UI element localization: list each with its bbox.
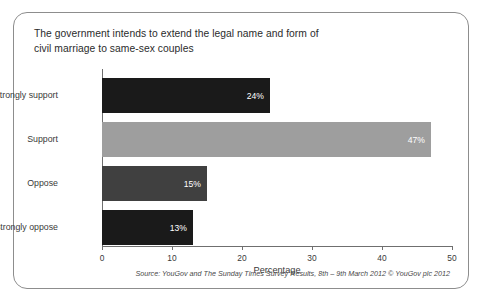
x-axis-tick-label: 30: [307, 253, 316, 263]
x-axis-tick-label: 0: [100, 253, 105, 263]
source-note: Source: YouGov and The Sunday Times Surv…: [135, 269, 450, 278]
chart-title-line-2: civil marriage to same-sex couples: [34, 41, 444, 56]
bar-row: 15%: [102, 166, 452, 201]
plot-area: Percentage 0102030405024%Strongly suppor…: [102, 69, 452, 246]
bar[interactable]: 15%: [102, 166, 207, 201]
x-axis-line: [102, 246, 452, 247]
category-label: Strongly oppose: [0, 222, 58, 232]
x-axis-tick-label: 20: [237, 253, 246, 263]
bar[interactable]: 24%: [102, 78, 270, 113]
bar-value-label: 47%: [408, 135, 431, 145]
category-label: Strongly support: [0, 90, 58, 100]
x-axis-tick-label: 40: [377, 253, 386, 263]
bar-row: 47%: [102, 122, 452, 157]
bar-value-label: 15%: [184, 179, 207, 189]
x-axis-tick-label: 50: [447, 253, 456, 263]
x-axis-tick: [172, 246, 173, 250]
x-axis-tick: [312, 246, 313, 250]
bar-value-label: 13%: [170, 223, 193, 233]
x-axis-tick-label: 10: [167, 253, 176, 263]
chart-screenshot: The government intends to extend the leg…: [0, 0, 484, 301]
category-label: Support: [0, 134, 58, 144]
chart-title: The government intends to extend the leg…: [34, 26, 444, 56]
x-axis-tick: [452, 246, 453, 250]
bar-value-label: 24%: [247, 91, 270, 101]
bar-row: 13%: [102, 210, 452, 245]
x-axis-tick: [102, 246, 103, 250]
x-axis-tick: [382, 246, 383, 250]
x-axis-tick: [242, 246, 243, 250]
chart-card: The government intends to extend the leg…: [13, 12, 469, 289]
bar[interactable]: 13%: [102, 210, 193, 245]
bar[interactable]: 47%: [102, 122, 431, 157]
bar-row: 24%: [102, 78, 452, 113]
chart-title-line-1: The government intends to extend the leg…: [34, 26, 444, 41]
category-label: Oppose: [0, 178, 58, 188]
